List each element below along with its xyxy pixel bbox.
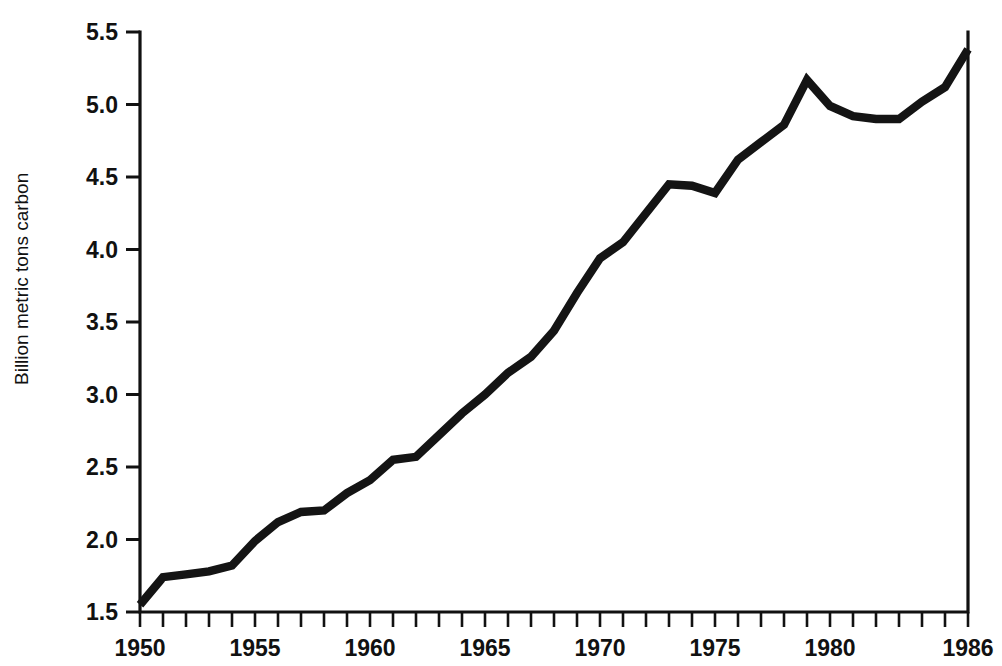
line-chart: Billion metric tons carbon 1.52.02.53.03… <box>0 0 1002 666</box>
y-axis-tick-label: 5.5 <box>86 19 118 45</box>
y-axis-tick-labels: 1.52.02.53.03.54.04.55.05.5 <box>86 19 118 625</box>
y-axis-tick-label: 3.0 <box>86 382 118 408</box>
x-axis-tick-label: 1970 <box>574 635 625 661</box>
y-axis-title-text: Billion metric tons carbon <box>11 173 32 385</box>
axis-frame <box>140 32 968 612</box>
x-axis-tick-label: 1975 <box>689 635 740 661</box>
x-axis-tick-label: 1950 <box>114 635 165 661</box>
x-axis-tick-label: 1986 <box>942 635 993 661</box>
x-axis-tick-label: 1965 <box>459 635 510 661</box>
y-axis-tick-label: 2.5 <box>86 454 118 480</box>
x-axis-tick-label: 1980 <box>804 635 855 661</box>
y-axis-tick-label: 3.5 <box>86 309 118 335</box>
x-axis-tick-label: 1955 <box>229 635 280 661</box>
y-axis-tick-label: 4.0 <box>86 237 118 263</box>
y-axis-tick-label: 2.0 <box>86 527 118 553</box>
data-series-line <box>140 49 968 604</box>
y-axis-title: Billion metric tons carbon <box>11 173 32 385</box>
chart-container: Billion metric tons carbon 1.52.02.53.03… <box>0 0 1002 666</box>
y-axis-tick-label: 4.5 <box>86 164 118 190</box>
y-axis-tick-label: 1.5 <box>86 599 118 625</box>
y-axis-tick-label: 5.0 <box>86 92 118 118</box>
x-axis-tick-labels: 19501955196019651970197519801986 <box>114 635 993 661</box>
x-axis-tick-label: 1960 <box>344 635 395 661</box>
